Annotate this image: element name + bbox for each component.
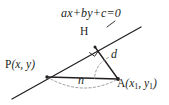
point-a-coords-close: ) bbox=[153, 77, 157, 89]
point-a-subscript-2: 1 bbox=[149, 82, 153, 91]
point-p-label: P(x, y) bbox=[5, 59, 35, 71]
point-a-coords-comma: , y bbox=[138, 77, 149, 89]
segment-n-label: n bbox=[78, 74, 84, 86]
equation-leader-line bbox=[107, 21, 115, 27]
point-h-label: H bbox=[80, 26, 88, 38]
point-p-coords: (x, y) bbox=[11, 58, 35, 70]
point-a-coords-open: (x bbox=[125, 77, 134, 89]
vertex-dot-h bbox=[94, 46, 97, 49]
point-a-subscript-1: 1 bbox=[134, 82, 138, 91]
vertex-dot-p bbox=[45, 75, 48, 78]
angle-arc-a bbox=[95, 58, 109, 79]
line-equation-label: ax+by+c=0 bbox=[61, 7, 121, 19]
geometry-diagram: ax+by+c=0 H d n P(x, y) A(x1, y1) bbox=[0, 0, 169, 105]
point-a-label: A(x1, y1) bbox=[117, 78, 157, 90]
distance-d-label: d bbox=[111, 48, 117, 60]
